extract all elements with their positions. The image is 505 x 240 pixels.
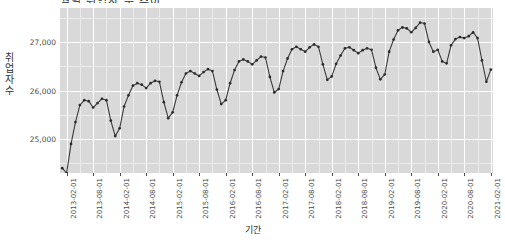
data-point (176, 94, 179, 97)
data-point (419, 21, 422, 24)
x-axis-tick-mark (173, 173, 174, 176)
data-point (92, 106, 95, 109)
chart-title: 월별 취업자 수 추이 (60, 0, 360, 3)
data-point (277, 88, 280, 91)
data-point (379, 78, 382, 81)
x-axis-tick-mark (464, 173, 465, 176)
data-point (454, 38, 457, 41)
data-point (180, 81, 183, 84)
data-point (264, 56, 267, 59)
data-point (299, 48, 302, 51)
data-point (123, 105, 126, 108)
series-line-path (62, 23, 491, 173)
data-point (109, 119, 112, 122)
x-axis-tick-label: 2014-08-01 (149, 178, 157, 219)
data-point (273, 91, 276, 94)
x-axis-tick-label: 2016-08-01 (255, 178, 263, 219)
data-point (211, 70, 214, 73)
data-point (140, 83, 143, 86)
y-axis-tick-label: 27,000 (10, 38, 56, 47)
data-point (246, 60, 249, 63)
data-point (193, 72, 196, 75)
data-point (348, 46, 351, 49)
data-point (322, 63, 325, 66)
data-point (375, 66, 378, 69)
x-axis-tick-label: 2016-02-01 (229, 178, 237, 219)
series-line-chart (60, 8, 493, 173)
x-axis-tick-label: 2019-02-01 (388, 178, 396, 219)
data-point (238, 60, 241, 63)
data-point (158, 80, 161, 83)
x-axis-tick-mark (279, 173, 280, 176)
x-axis-tick-mark (67, 173, 68, 176)
data-point (344, 47, 347, 50)
x-axis-tick-label: 2015-02-01 (176, 178, 184, 219)
data-point (105, 99, 108, 102)
data-point (467, 35, 470, 38)
data-point (220, 103, 223, 106)
x-axis-tick-mark (358, 173, 359, 176)
plot-panel (60, 8, 493, 173)
data-point (114, 135, 117, 138)
x-axis-tick-label: 2013-08-01 (96, 178, 104, 219)
x-axis-tick-label: 2014-02-01 (123, 178, 131, 219)
y-axis-tick-label: 25,000 (10, 135, 56, 144)
data-point (269, 76, 272, 79)
data-point (445, 62, 448, 65)
data-point (436, 48, 439, 51)
data-point (118, 127, 121, 130)
x-axis-tick-mark (226, 173, 227, 176)
data-point (132, 84, 135, 87)
data-point (423, 22, 426, 25)
y-axis-tick-label: 26,000 (10, 86, 56, 95)
data-point (410, 31, 413, 34)
data-point (414, 27, 417, 30)
data-point (70, 143, 73, 146)
data-point (361, 49, 364, 52)
data-point (428, 41, 431, 44)
data-point (251, 63, 254, 66)
data-point (189, 70, 192, 73)
x-axis-tick-label: 2017-08-01 (308, 178, 316, 219)
x-axis-tick-label: 2020-02-01 (441, 178, 449, 219)
x-axis-tick-mark (199, 173, 200, 176)
data-point (485, 80, 488, 83)
x-axis-tick-mark (411, 173, 412, 176)
data-point (450, 44, 453, 47)
data-point (233, 69, 236, 72)
data-point (397, 29, 400, 32)
x-axis-tick-label: 2018-08-01 (361, 178, 369, 219)
data-point (61, 167, 64, 170)
data-point (326, 78, 329, 81)
data-point (282, 70, 285, 73)
x-axis-tick-mark (252, 173, 253, 176)
data-point (357, 52, 360, 55)
x-axis-tick-mark (491, 173, 492, 176)
x-axis-tick-label: 2013-02-01 (70, 178, 78, 219)
data-point (295, 45, 298, 48)
x-axis-tick-label: 2021-02-01 (494, 178, 502, 219)
data-point (74, 121, 77, 124)
data-point (167, 117, 170, 120)
x-axis-tick-mark (120, 173, 121, 176)
data-point (489, 68, 492, 71)
data-point (185, 72, 188, 75)
x-axis-title: 기간 (0, 223, 505, 236)
data-point (286, 57, 289, 60)
data-point (171, 111, 174, 114)
data-point (459, 36, 462, 39)
data-point (383, 73, 386, 76)
data-point (476, 37, 479, 40)
data-point (101, 97, 104, 100)
y-axis-tick-labels: 25,00026,00027,000 (10, 0, 56, 240)
x-axis-tick-mark (146, 173, 147, 176)
data-point (242, 58, 245, 61)
data-point (388, 50, 391, 53)
data-point (162, 101, 165, 104)
data-point (432, 50, 435, 53)
data-point (79, 104, 82, 107)
data-point (149, 82, 152, 85)
data-point (216, 88, 219, 91)
x-axis-tick-mark (305, 173, 306, 176)
data-point (96, 102, 99, 105)
